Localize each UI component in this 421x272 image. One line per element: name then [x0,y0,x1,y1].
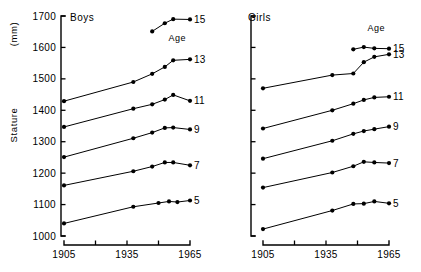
series-girls-age-9: 9 [261,121,399,161]
data-point [351,47,355,51]
data-point [387,161,391,165]
data-point [171,58,175,62]
series-girls-age-5: 5 [261,198,399,231]
data-point [351,71,355,75]
data-point [188,99,192,103]
age-legend-caption-girls: Age [367,23,385,33]
y-tick-label: 1600 [33,42,57,53]
data-point [362,202,366,206]
y-tick-label: 1700 [33,11,57,22]
data-point [163,126,167,130]
data-point [131,205,135,209]
series-boys-age-5: 5 [62,195,200,225]
data-point [387,47,391,51]
data-point [131,80,135,84]
series-label-age-7: 7 [194,160,200,171]
series-line [353,47,389,49]
series-label-age-9: 9 [393,121,399,132]
y-tick-label: 1100 [33,199,56,210]
series-line [64,59,190,101]
data-point [330,170,334,174]
series-label-age-5: 5 [194,195,200,206]
data-point [62,183,66,187]
data-point [171,160,175,164]
data-point [372,160,376,164]
data-point [163,160,167,164]
data-point [261,86,265,90]
series-label-age-13: 13 [194,54,206,65]
data-point [387,201,391,205]
data-point [175,200,179,204]
data-point [362,98,366,102]
data-point [372,55,376,59]
data-point [261,126,265,130]
data-point [188,198,192,202]
data-point [163,98,167,102]
y-axis-unit: (mm) [8,22,19,47]
data-point [387,125,391,129]
series-girls-age-15: 15 [351,43,405,54]
data-point [171,125,175,129]
series-boys-age-11: 11 [62,93,205,129]
series-label-age-11: 11 [194,95,205,106]
data-point [261,157,265,161]
series-girls-age-13: 13 [261,49,405,90]
data-point [156,201,160,205]
series-boys-age-13: 13 [62,54,206,103]
x-tick-label: 1935 [314,249,338,260]
series-label-age-5: 5 [393,198,399,209]
x-tick-label: 1905 [251,249,275,260]
data-point [150,72,154,76]
data-point [351,132,355,136]
data-point [372,46,376,50]
data-point [351,102,355,106]
data-point [131,107,135,111]
data-point [372,199,376,203]
data-point [188,57,192,61]
chart-canvas: 17001600150014001300120011001000Stature(… [0,0,421,272]
y-axis-title: Stature [8,108,19,143]
x-tick-label: 1935 [115,249,139,260]
data-point [330,139,334,143]
panel-title-boys: Boys [70,12,94,23]
data-point [188,163,192,167]
data-point [131,169,135,173]
series-line [263,127,389,159]
age-legend-caption-boys: Age [168,33,186,43]
y-tick-label: 1000 [33,231,57,242]
data-point [163,65,167,69]
data-point [163,21,167,25]
data-point [387,52,391,56]
y-axis-line-girls [251,16,255,236]
data-point [330,208,334,212]
data-point [330,73,334,77]
stature-trend-figure: 17001600150014001300120011001000Stature(… [0,0,421,272]
data-point [171,93,175,97]
data-point [150,102,154,106]
data-point [62,99,66,103]
data-point [261,227,265,231]
data-point [62,125,66,129]
series-line [64,200,190,223]
data-point [150,164,154,168]
data-point [150,131,154,135]
data-point [362,129,366,133]
data-point [387,95,391,99]
series-label-age-15: 15 [194,14,206,25]
series-girls-age-11: 11 [261,91,404,130]
y-tick-label: 1200 [33,168,57,179]
y-tick-label: 1300 [33,136,57,147]
series-line [263,201,389,229]
series-label-age-7: 7 [393,158,399,169]
series-label-age-11: 11 [393,91,404,102]
y-axis: 17001600150014001300120011001000Stature(… [8,11,66,242]
panel-boys: Boys190519351965Age579111315 [52,12,206,260]
series-line [64,95,190,127]
series-line [263,97,389,129]
series-line [152,19,190,31]
x-tick-label: 1905 [52,249,76,260]
panel-girls: Girls190519351965Age579111315 [248,12,405,260]
series-line [64,162,190,185]
data-point [171,17,175,21]
data-point [150,29,154,33]
